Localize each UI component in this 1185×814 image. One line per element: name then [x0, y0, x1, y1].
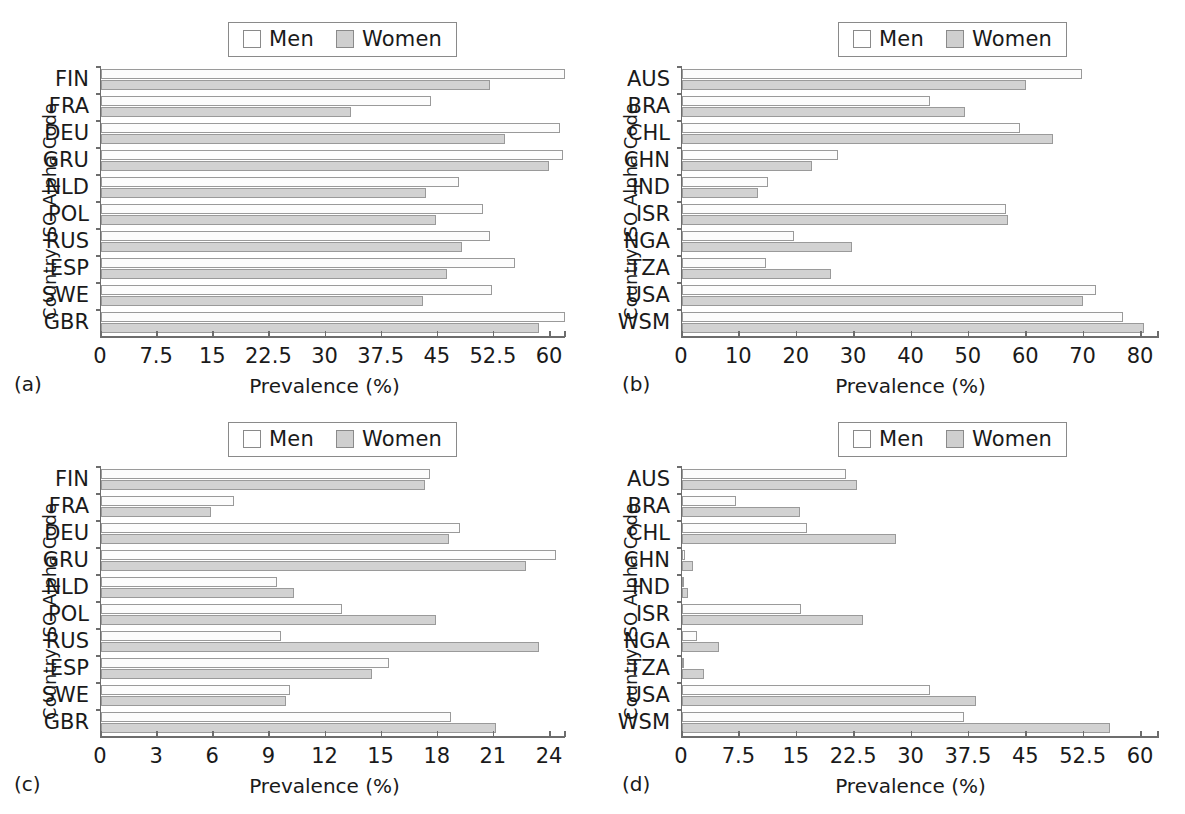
bar-nga-women — [682, 642, 719, 652]
bar-gbr-men — [101, 712, 451, 722]
x-tick-mark — [493, 331, 495, 337]
bar-chn-women — [682, 161, 812, 171]
legend-item-women: Women — [336, 427, 442, 451]
y-tick-label: WSM — [600, 709, 677, 736]
x-tick-mark — [1025, 731, 1027, 737]
x-tick-mark — [738, 731, 740, 737]
x-tick-label: 37.5 — [357, 344, 404, 368]
bar-group — [682, 493, 1141, 520]
x-tick-label: 22.5 — [830, 744, 877, 768]
bar-esp-men — [101, 658, 389, 668]
legend-label-women: Women — [972, 27, 1052, 51]
panel-label-a: (a) — [14, 372, 42, 396]
bar-group — [682, 147, 1141, 174]
panel-label-d: (d) — [622, 772, 650, 796]
bar-group — [682, 520, 1141, 547]
bar-nld-women — [101, 588, 294, 598]
x-tick-mark — [268, 331, 270, 337]
x-tick-mark — [381, 731, 383, 737]
x-tick-mark — [100, 731, 102, 737]
y-tick-label: NLD — [0, 174, 96, 201]
bar-deu-men — [101, 523, 460, 533]
bar-ind-women — [682, 588, 688, 598]
plot-area — [681, 466, 1141, 736]
x-tick-label: 7.5 — [722, 744, 755, 768]
bar-group — [101, 282, 550, 309]
bar-group — [101, 520, 550, 547]
bar-usa-women — [682, 296, 1083, 306]
bar-group — [101, 655, 550, 682]
legend-panel-b: Men Women — [838, 22, 1067, 57]
x-tick-label: 24 — [536, 744, 563, 768]
x-axis-line — [681, 336, 1159, 338]
legend-label-men: Men — [269, 27, 314, 51]
y-tick-label: USA — [600, 682, 677, 709]
x-tick-mark — [549, 731, 551, 737]
x-tick-labels: 07.51522.53037.54552.560 — [100, 344, 549, 372]
bar-tza-men — [682, 258, 766, 268]
bar-deu-women — [101, 134, 505, 144]
y-tick-label: IND — [600, 174, 677, 201]
bar-bra-men — [682, 496, 736, 506]
x-tick-mark — [796, 331, 798, 337]
bar-group — [682, 255, 1141, 282]
bar-swe-women — [101, 696, 286, 706]
plot-area — [681, 66, 1141, 336]
x-tick-label: 15 — [367, 744, 394, 768]
legend-label-men: Men — [879, 427, 924, 451]
plot-area — [100, 466, 550, 736]
x-tick-label: 18 — [423, 744, 450, 768]
x-axis-title: Prevalence (%) — [100, 774, 549, 798]
bar-group — [101, 547, 550, 574]
x-tick-mark — [681, 331, 683, 337]
y-tick-label: CHN — [600, 147, 677, 174]
x-tick-mark — [796, 731, 798, 737]
panel-b: Men Women Country ISO Alpha Code AUSBRAC… — [600, 0, 1185, 400]
legend-label-women: Women — [972, 427, 1052, 451]
legend-panel-a: Men Women — [228, 22, 457, 57]
y-tick-label: FRA — [0, 93, 96, 120]
y-tick-label: GBR — [0, 709, 96, 736]
x-tick-labels: 03691215182124 — [100, 744, 549, 772]
y-tick-label: WSM — [600, 309, 677, 336]
legend-item-men: Men — [243, 27, 314, 51]
y-tick-label: FIN — [0, 66, 96, 93]
legend-item-men: Men — [853, 427, 924, 451]
x-tick-label: 52.5 — [1059, 744, 1106, 768]
bar-rus-men — [101, 231, 490, 241]
bar-tza-women — [682, 669, 704, 679]
bar-isr-men — [682, 204, 1006, 214]
x-tick-labels: 01020304050607080 — [681, 344, 1140, 372]
y-tick-label: RUS — [0, 228, 96, 255]
panel-d: Men Women Country ISO Alpha Code AUSBRAC… — [600, 400, 1185, 800]
bar-bra-women — [682, 107, 965, 117]
bar-group — [101, 120, 550, 147]
bar-chl-men — [682, 123, 1020, 133]
bar-rus-women — [101, 642, 539, 652]
x-tick-label: 30 — [311, 344, 338, 368]
bar-esp-men — [101, 258, 515, 268]
y-tick-label: BRA — [600, 493, 677, 520]
x-axis-title: Prevalence (%) — [681, 774, 1140, 798]
x-tick-label: 10 — [725, 344, 752, 368]
x-tick-label: 0 — [93, 744, 106, 768]
x-tick-label: 70 — [1069, 344, 1096, 368]
x-tick-mark — [853, 331, 855, 337]
bar-group — [682, 682, 1141, 709]
bar-isr-women — [682, 215, 1008, 225]
bar-group — [101, 66, 550, 93]
bar-nga-men — [682, 231, 794, 241]
bar-wsm-women — [682, 723, 1110, 733]
bar-group — [101, 93, 550, 120]
x-axis-line — [100, 736, 565, 738]
bar-ind-men — [682, 177, 768, 187]
y-tick-label: GRU — [0, 547, 96, 574]
bar-group — [682, 120, 1141, 147]
x-tick-label: 15 — [782, 744, 809, 768]
bar-fra-men — [101, 496, 234, 506]
y-tick-labels: AUSBRACHLCHNINDISRNGATZAUSAWSM — [600, 466, 677, 736]
plot-area — [100, 66, 550, 336]
x-tick-mark — [212, 731, 214, 737]
bar-tza-women — [682, 269, 831, 279]
bar-bra-women — [682, 507, 800, 517]
